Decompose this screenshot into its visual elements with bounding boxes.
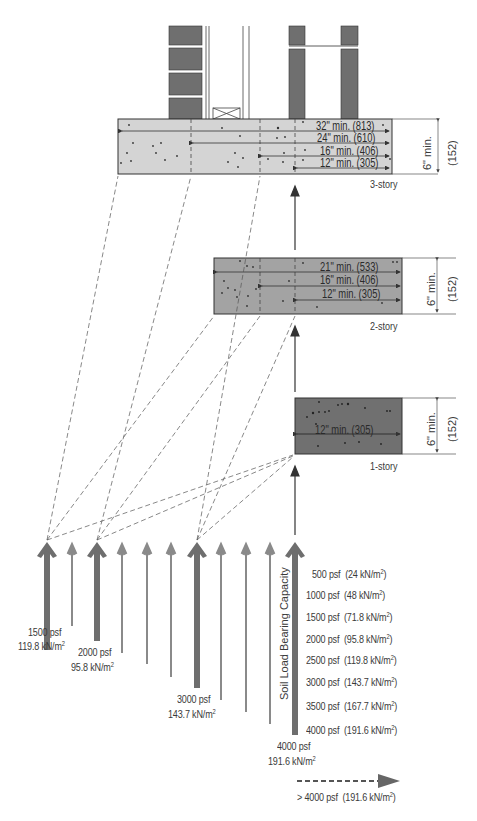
arrow-label-3000-psf: 3000 psf [177,693,210,705]
depth-label-1-story: 6" min. [425,412,437,446]
arrow-3000-psf [187,542,207,688]
axis-label-soil-bearing: Soil Load Bearing Capacity [278,567,290,700]
legend-item-dashed: > 4000 psf (191.6 kN/m2) [297,791,396,803]
legend-item: 3500 psf (167.7 kN/m2) [306,700,397,712]
depth-metric-1-story: (152) [446,416,458,442]
depth-metric-2-story: (152) [446,276,458,302]
footing-label-1-story: 1-story [370,460,398,472]
legend-item: 2000 psf (95.8 kN/m2) [306,633,392,645]
arrow-label-1500-metric: 119.8 kN/m2 [18,640,65,652]
width-label-21in: 21" min. (533) [320,261,378,273]
legend-item: 2500 psf (119.8 kN/m2) [306,654,397,666]
arrow-label-2000-psf: 2000 psf [78,646,111,658]
dashed-load-lines [47,176,295,540]
masonry-wall-right [289,26,358,119]
width-label-12in-1: 12" min. (305) [315,424,373,436]
legend-item: 1000 psf (48 kN/m2) [306,589,385,601]
arrow-label-1500-psf: 1500 psf [28,626,61,638]
width-label-12in: 12" min. (305) [320,157,378,169]
masonry-wall-left [169,26,202,119]
vertical-load-path [291,186,299,535]
legend-item: 3000 psf (143.7 kN/m2) [306,676,397,688]
legend-item: 1500 psf (71.8 kN/m2) [306,611,392,623]
arrow-label-4000-psf: 4000 psf [277,740,310,752]
dashed-arrow-legend [297,774,400,788]
stud-wall [206,26,249,119]
legend-item: 4000 psf (191.6 kN/m2) [306,724,397,736]
width-label-16in-2: 16" min. (406) [320,274,378,286]
footing-label-3-story: 3-story [370,178,398,190]
depth-metric-3-story: (152) [446,140,458,166]
depth-label-3-story: 6" min. [421,136,433,170]
depth-label-2-story: 6" min. [425,272,437,306]
soil-bearing-arrows [37,542,305,735]
width-label-24in: 24" min. (610) [317,132,375,144]
footing-label-2-story: 2-story [370,320,398,332]
arrow-2000-psf [87,542,107,641]
width-label-12in-2: 12" min. (305) [322,288,380,300]
arrow-label-4000-metric: 191.6 kN/m2 [268,755,316,767]
footing-diagram [0,0,477,821]
arrow-label-3000-metric: 143.7 kN/m2 [168,708,216,720]
arrow-label-2000-metric: 95.8 kN/m2 [71,661,114,673]
legend-item: 500 psf (24 kN/m2) [312,568,386,580]
